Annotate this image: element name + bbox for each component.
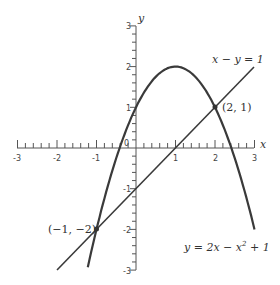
- y-tick-label: 1: [126, 104, 131, 113]
- parabola-equation-label: y = 2x − x2 + 1: [183, 240, 270, 254]
- x-tick-label: 2: [213, 154, 218, 163]
- graph-canvas: -3 -2 -1 1 2 3 0 3 2 1 -1 -2 -3 x y (2, …: [0, 0, 280, 285]
- x-tick-label: -2: [53, 154, 61, 163]
- intersection-point-2-1: [213, 105, 218, 110]
- y-tick-label: 3: [126, 22, 131, 31]
- x-tick-label: 3: [252, 154, 257, 163]
- y-tick-label: 2: [126, 63, 131, 72]
- line-equation-label: x − y = 1: [212, 53, 264, 66]
- origin-label: 0: [124, 139, 129, 148]
- x-axis-label: x: [260, 138, 267, 151]
- y-tick-label: -3: [123, 267, 131, 276]
- line-curve: [57, 67, 254, 270]
- parabola-curve: [88, 67, 255, 268]
- y-tick-label: -2: [123, 226, 131, 235]
- x-tick-label: -1: [92, 154, 100, 163]
- y-axis-label: y: [137, 12, 145, 25]
- x-tick-label: -3: [13, 154, 21, 163]
- y-tick-label: -1: [123, 185, 131, 194]
- x-tick-label: 1: [173, 154, 178, 163]
- point-label-2-1: (2, 1): [222, 101, 252, 114]
- point-label-m1-m2: (−1, −2): [48, 223, 96, 236]
